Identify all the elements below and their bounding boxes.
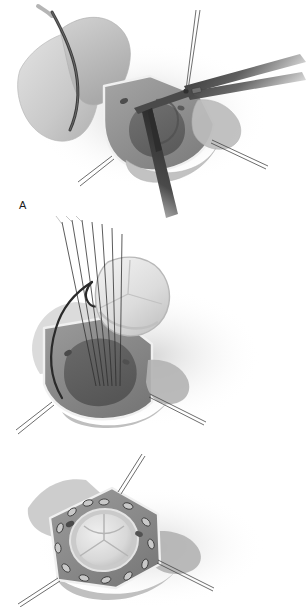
- pledget: [99, 499, 109, 506]
- panel-label-a: A: [19, 200, 27, 211]
- aortic-annulus-lumen: [64, 338, 137, 406]
- surgical-figure: A: [0, 0, 306, 607]
- annular-suture-bundle-fade: [56, 216, 82, 224]
- stay-suture-left: [18, 578, 60, 607]
- retraction-suture-tail: [38, 6, 52, 16]
- panel-b: B: [0, 216, 306, 456]
- stay-suture-left: [16, 402, 54, 434]
- panel-a-illustration: [0, 0, 306, 218]
- panel-a: A: [0, 0, 306, 218]
- panel-c: [0, 452, 306, 607]
- panel-c-illustration: [0, 452, 306, 607]
- panel-b-illustration: [0, 216, 306, 456]
